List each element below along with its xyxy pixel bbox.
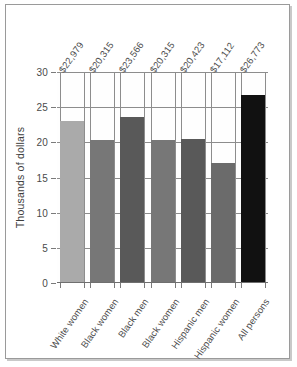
bar — [241, 95, 265, 283]
bar-chart-figure: Thousands of dollars 051015202530 $22,97… — [0, 0, 297, 367]
x-tick-mark — [235, 283, 236, 288]
x-tick-mark — [144, 283, 145, 288]
bar — [60, 121, 84, 283]
bar — [211, 163, 235, 283]
x-tick-mark — [90, 283, 91, 288]
y-tick-label: 20 — [36, 137, 48, 148]
gridline-vertical — [84, 72, 85, 283]
x-tick-mark — [151, 283, 152, 288]
y-tick-mark — [51, 248, 56, 249]
x-tick-mark — [60, 283, 61, 288]
x-tick-mark — [120, 283, 121, 288]
gridline-horizontal — [57, 107, 268, 108]
bar — [90, 140, 114, 283]
gridline-vertical — [205, 72, 206, 283]
bar — [120, 117, 144, 283]
x-axis-line — [57, 282, 268, 283]
gridline-vertical — [235, 72, 236, 283]
gridline-horizontal — [57, 72, 268, 73]
y-tick-mark — [51, 213, 56, 214]
y-tick-mark — [51, 283, 56, 284]
y-tick-mark — [51, 142, 56, 143]
x-tick-mark — [84, 283, 85, 288]
y-tick-label: 25 — [36, 102, 48, 113]
x-tick-mark — [241, 283, 242, 288]
x-tick-mark — [211, 283, 212, 288]
bar — [151, 140, 175, 283]
plot-area: 051015202530 — [57, 72, 268, 283]
y-tick-label: 30 — [36, 67, 48, 78]
x-tick-mark — [175, 283, 176, 288]
gridline-vertical — [175, 72, 176, 283]
y-tick-label: 5 — [42, 242, 48, 253]
gridline-vertical — [265, 72, 266, 283]
y-axis-title: Thousands of dollars — [14, 72, 28, 283]
x-tick-mark — [265, 283, 266, 288]
x-tick-mark — [205, 283, 206, 288]
y-tick-label: 15 — [36, 172, 48, 183]
y-tick-mark — [51, 72, 56, 73]
y-tick-mark — [51, 107, 56, 108]
y-tick-mark — [51, 178, 56, 179]
x-tick-mark — [114, 283, 115, 288]
bar — [181, 139, 205, 283]
x-tick-mark — [181, 283, 182, 288]
y-tick-label: 10 — [36, 207, 48, 218]
y-tick-label: 0 — [42, 278, 48, 289]
